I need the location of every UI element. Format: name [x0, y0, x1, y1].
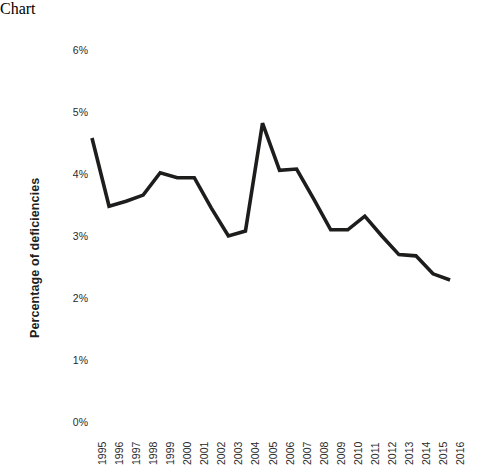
x-axis-tick-2009: 2009 — [336, 442, 347, 465]
x-axis-tick-1999: 1999 — [165, 442, 176, 465]
x-axis-tick-2005: 2005 — [268, 442, 279, 465]
x-axis-tick-2006: 2006 — [285, 442, 296, 465]
x-axis-tick-2012: 2012 — [387, 442, 398, 465]
x-axis-tick-2008: 2008 — [319, 442, 330, 465]
x-axis-tick-2014: 2014 — [421, 442, 432, 465]
x-axis-tick-1996: 1996 — [114, 442, 125, 465]
x-axis-tick-1997: 1997 — [131, 442, 142, 465]
x-axis-tick-2004: 2004 — [250, 442, 261, 465]
x-axis-tick-2007: 2007 — [302, 442, 313, 465]
x-axis-tick-labels: 1995199619971998199920002001200220032004… — [0, 18, 485, 469]
line-chart: Percentage of deficiencies 6%5%4%3%2%1%0… — [0, 18, 485, 469]
x-axis-tick-2002: 2002 — [216, 442, 227, 465]
x-axis-tick-2011: 2011 — [370, 442, 381, 465]
x-axis-tick-1995: 1995 — [97, 442, 108, 465]
x-axis-tick-2003: 2003 — [233, 442, 244, 465]
x-axis-tick-2000: 2000 — [182, 442, 193, 465]
x-axis-tick-2016: 2016 — [455, 442, 466, 465]
x-axis-tick-2015: 2015 — [438, 442, 449, 465]
x-axis-tick-2013: 2013 — [404, 442, 415, 465]
x-axis-tick-1998: 1998 — [148, 442, 159, 465]
x-axis-tick-2001: 2001 — [199, 442, 210, 465]
x-axis-tick-2010: 2010 — [353, 442, 364, 465]
